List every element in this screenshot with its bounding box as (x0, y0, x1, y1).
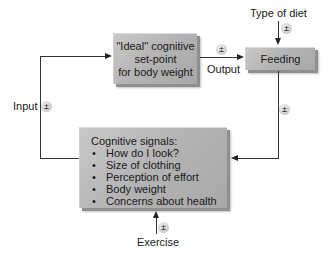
exercise-modulator-icon: ± (158, 222, 169, 233)
feeding-line-vertical (278, 71, 279, 159)
input-label: Input (13, 100, 37, 112)
output-label: Output (207, 63, 240, 75)
diet-line (278, 21, 279, 39)
list-item: Body weight (91, 183, 227, 195)
feeding-arrow-icon (231, 155, 238, 161)
setpoint-line-3: for body weight (114, 66, 197, 79)
feeding-label: Feeding (246, 53, 315, 66)
output-modulator-icon: ± (216, 44, 227, 55)
output-line (200, 57, 238, 58)
feeding-box: Feeding (245, 47, 315, 70)
input-arrow-icon (105, 53, 112, 59)
list-item: Concerns about health (91, 195, 227, 207)
list-item: How do I look? (91, 147, 227, 159)
cognitive-signals-list: How do I look? Size of clothing Percepti… (91, 147, 227, 207)
input-modulator-icon: ± (41, 101, 52, 112)
input-line-horizontal-top (40, 56, 106, 57)
list-item: Size of clothing (91, 159, 227, 171)
exercise-arrow-icon (153, 211, 159, 218)
exercise-line (156, 217, 157, 234)
feeding-modulator-icon: ± (279, 104, 290, 115)
type-of-diet-label: Type of diet (250, 7, 307, 19)
setpoint-line-2: set-point (114, 53, 197, 66)
feeding-line-horizontal (237, 158, 279, 159)
cognitive-signals-title: Cognitive signals: (91, 135, 227, 147)
cognitive-signals-box: Cognitive signals: How do I look? Size o… (79, 127, 227, 208)
setpoint-line-1: "Ideal" cognitive (114, 40, 197, 53)
diet-arrow-icon (275, 38, 281, 45)
input-line-horizontal-bottom (40, 158, 79, 159)
list-item: Perception of effort (91, 171, 227, 183)
setpoint-box: "Ideal" cognitive set-point for body wei… (113, 33, 197, 84)
diet-modulator-icon: ± (281, 23, 292, 34)
output-arrow-icon (237, 54, 244, 60)
exercise-label: Exercise (137, 236, 179, 248)
